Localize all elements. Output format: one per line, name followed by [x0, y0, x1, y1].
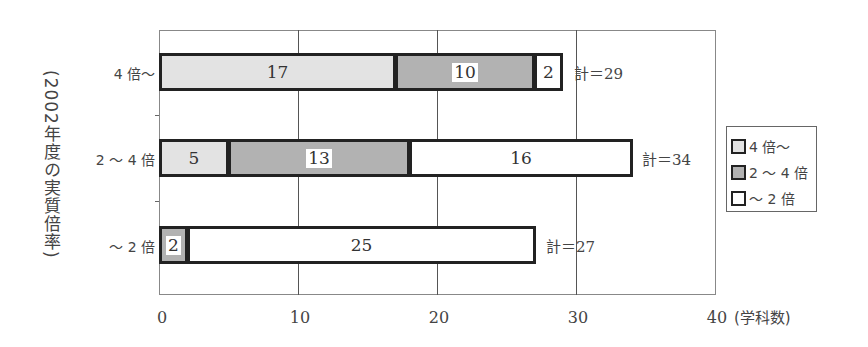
segment-2-4x: 13 — [229, 139, 410, 177]
segment-value: 10 — [452, 63, 478, 82]
segment-value: 2 — [541, 63, 556, 82]
bar-4x-plus: 17 10 2 — [159, 53, 563, 91]
segment-value: 13 — [306, 149, 332, 168]
bar-under-2x: 2 25 — [159, 226, 536, 264]
legend-swatch-icon — [731, 191, 746, 206]
segment-value: 17 — [265, 63, 291, 82]
total-label: 計＝29 — [574, 62, 623, 83]
total-label: 計＝27 — [546, 235, 595, 256]
legend-label: 2 〜 4 倍 — [749, 162, 808, 182]
legend-item-under-2x: 〜 2 倍 — [731, 185, 812, 211]
legend-label: 〜 2 倍 — [749, 188, 795, 208]
legend-item-4x-plus: 4 倍〜 — [731, 133, 812, 159]
legend-item-2-4x: 2 〜 4 倍 — [731, 159, 812, 185]
bar-2-4x: 5 13 16 — [159, 139, 633, 177]
segment-value: 2 — [166, 236, 181, 255]
y-axis-label: (2002年度の実質倍率) — [40, 70, 64, 259]
x-axis-label: (学科数) — [734, 306, 791, 327]
x-tick-label: 30 — [568, 308, 588, 327]
legend-swatch-icon — [731, 139, 746, 154]
y-tick — [155, 115, 159, 116]
legend-swatch-icon — [731, 165, 746, 180]
segment-value: 25 — [349, 236, 375, 255]
legend: 4 倍〜 2 〜 4 倍 〜 2 倍 — [726, 126, 817, 212]
segment-under-2x: 2 — [535, 53, 563, 91]
legend-label: 4 倍〜 — [749, 136, 790, 156]
segment-2-4x: 10 — [396, 53, 535, 91]
total-label: 計＝34 — [642, 148, 691, 169]
segment-4x-plus: 17 — [159, 53, 396, 91]
segment-under-2x: 25 — [188, 226, 536, 264]
segment-value: 16 — [508, 149, 534, 168]
segment-2-4x: 2 — [159, 226, 188, 264]
y-tick — [155, 201, 159, 202]
x-tick-label: 0 — [157, 308, 167, 327]
segment-value: 5 — [187, 149, 202, 168]
category-label-2-4x: 2 〜 4 倍 — [96, 149, 155, 169]
segment-4x-plus: 5 — [159, 139, 229, 177]
x-tick-label: 20 — [429, 308, 449, 327]
category-label-under-2x: 〜 2 倍 — [109, 236, 155, 256]
x-tick-label: 10 — [290, 308, 310, 327]
segment-under-2x: 16 — [410, 139, 633, 177]
x-tick-label: 40 — [707, 308, 727, 327]
category-label-4x-plus: 4 倍〜 — [114, 63, 155, 83]
